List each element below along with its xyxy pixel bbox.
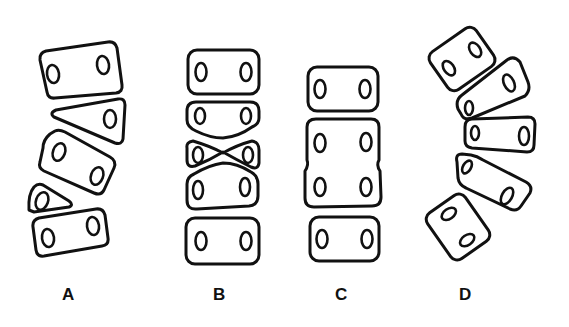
panel-label-c: C [335, 285, 347, 305]
panel-b-figure [186, 50, 259, 264]
panel-a-figure [29, 42, 125, 256]
panel-label-b: B [213, 285, 225, 305]
vertebrae-diagram [0, 0, 569, 327]
panel-d-figure [423, 24, 535, 263]
panel-label-d: D [459, 285, 471, 305]
panel-c-figure [305, 67, 381, 261]
panel-label-a: A [62, 285, 74, 305]
